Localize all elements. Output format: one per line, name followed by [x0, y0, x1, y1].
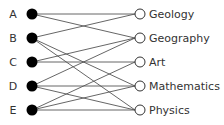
- right-node-mathematics: Mathematics: [135, 80, 220, 93]
- open-circle-icon: [135, 105, 145, 115]
- right-node-label: Physics: [149, 104, 190, 117]
- left-node-label: D: [9, 80, 17, 93]
- left-node-e: E: [10, 104, 38, 117]
- right-node-physics: Physics: [135, 104, 190, 117]
- right-node-geography: Geography: [135, 32, 210, 45]
- open-circle-icon: [135, 81, 145, 91]
- filled-circle-icon: [27, 105, 38, 116]
- graph-canvas: ABCDE GeologyGeographyArtMathematicsPhys…: [0, 0, 224, 125]
- left-node-b: B: [9, 32, 37, 45]
- filled-circle-icon: [27, 9, 38, 20]
- edge-c-geography: [32, 38, 135, 62]
- open-circle-icon: [135, 33, 145, 43]
- filled-circle-icon: [27, 57, 38, 68]
- left-node-label: B: [9, 32, 17, 45]
- left-node-label: C: [9, 56, 17, 69]
- right-nodes: GeologyGeographyArtMathematicsPhysics: [135, 8, 220, 117]
- left-node-label: E: [10, 104, 17, 117]
- left-node-a: A: [9, 8, 37, 21]
- open-circle-icon: [135, 57, 145, 67]
- right-node-geology: Geology: [135, 8, 195, 21]
- filled-circle-icon: [27, 33, 38, 44]
- right-node-label: Geography: [149, 32, 210, 45]
- left-node-d: D: [9, 80, 38, 93]
- right-node-label: Art: [149, 56, 166, 69]
- filled-circle-icon: [27, 81, 38, 92]
- bipartite-diagram: ABCDE GeologyGeographyArtMathematicsPhys…: [0, 0, 224, 125]
- edge-b-physics: [32, 38, 135, 110]
- right-node-label: Mathematics: [149, 80, 220, 93]
- right-node-art: Art: [135, 56, 166, 69]
- left-node-c: C: [9, 56, 37, 69]
- right-node-label: Geology: [149, 8, 195, 21]
- open-circle-icon: [135, 9, 145, 19]
- left-nodes: ABCDE: [9, 8, 38, 117]
- left-node-label: A: [9, 8, 17, 21]
- edges-layer: [32, 14, 135, 110]
